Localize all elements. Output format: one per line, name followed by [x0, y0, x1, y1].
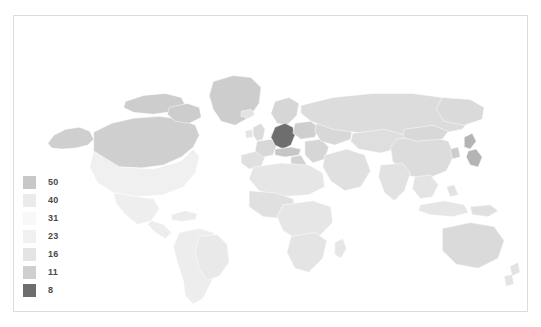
legend-item: 50 [23, 176, 58, 189]
legend-swatch-31 [23, 212, 36, 225]
map-card: 50 40 31 23 16 11 [13, 15, 528, 312]
legend-item: 40 [23, 194, 58, 207]
legend-label-40: 40 [48, 194, 58, 207]
world-choropleth-map: 50 40 31 23 16 11 [14, 16, 527, 311]
legend-label-23: 23 [48, 230, 58, 243]
legend-swatch-23 [23, 230, 36, 243]
world-map-svg [14, 16, 527, 311]
map-legend: 50 40 31 23 16 11 [23, 176, 58, 297]
legend-label-11: 11 [48, 266, 58, 279]
region-new-zealand-south [504, 274, 514, 286]
legend-label-8: 8 [48, 284, 53, 297]
legend-item: 31 [23, 212, 58, 225]
region-korea [450, 147, 460, 159]
region-switzerland-austria [275, 147, 301, 157]
legend-swatch-40 [23, 194, 36, 207]
legend-swatch-11 [23, 266, 36, 279]
legend-item: 11 [23, 266, 58, 279]
legend-item: 16 [23, 248, 58, 261]
legend-label-50: 50 [48, 176, 58, 189]
legend-label-16: 16 [48, 248, 58, 261]
legend-label-31: 31 [48, 212, 58, 225]
legend-swatch-50 [23, 176, 36, 189]
legend-swatch-16 [23, 248, 36, 261]
legend-item: 8 [23, 284, 58, 297]
legend-item: 23 [23, 230, 58, 243]
legend-swatch-8 [23, 284, 36, 297]
